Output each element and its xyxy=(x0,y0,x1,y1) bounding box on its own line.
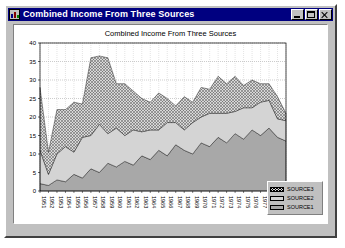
svg-text:1966: 1966 xyxy=(168,196,174,208)
svg-text:1971: 1971 xyxy=(211,196,217,208)
svg-text:25: 25 xyxy=(29,96,36,102)
svg-text:1957: 1957 xyxy=(92,196,98,208)
legend-label: SOURCE3 xyxy=(287,186,314,192)
svg-text:40: 40 xyxy=(29,40,36,46)
svg-text:1974: 1974 xyxy=(236,196,242,208)
legend-swatch-source2 xyxy=(270,196,284,201)
legend-item[interactable]: SOURCE1 xyxy=(270,203,320,211)
svg-text:15: 15 xyxy=(29,133,36,139)
svg-text:1962: 1962 xyxy=(134,196,140,208)
svg-text:10: 10 xyxy=(29,151,36,157)
svg-text:1975: 1975 xyxy=(245,196,251,208)
svg-text:1969: 1969 xyxy=(194,196,200,208)
svg-text:1959: 1959 xyxy=(109,196,115,208)
svg-text:1972: 1972 xyxy=(219,196,225,208)
legend-swatch-source1 xyxy=(270,205,284,210)
legend-label: SOURCE1 xyxy=(287,204,314,210)
legend-swatch-source3 xyxy=(270,187,284,192)
svg-text:1968: 1968 xyxy=(185,196,191,208)
legend-item[interactable]: SOURCE2 xyxy=(270,194,320,202)
title-bar[interactable]: Combined Income From Three Sources xyxy=(8,8,333,21)
legend-label: SOURCE2 xyxy=(287,195,314,201)
legend-item[interactable]: SOURCE3 xyxy=(270,185,320,193)
chart-panel: Combined Income From Three Sources 05101… xyxy=(13,24,328,224)
close-button[interactable] xyxy=(319,9,332,20)
application-window: Combined Income From Three Sources Combi… xyxy=(4,4,337,238)
svg-text:1964: 1964 xyxy=(151,196,157,208)
svg-text:0: 0 xyxy=(33,188,37,194)
svg-text:1956: 1956 xyxy=(83,196,89,208)
svg-text:1970: 1970 xyxy=(202,196,208,208)
svg-text:1963: 1963 xyxy=(143,196,149,208)
svg-text:1976: 1976 xyxy=(253,196,259,208)
svg-text:1953: 1953 xyxy=(58,196,64,208)
svg-text:1951: 1951 xyxy=(41,196,47,208)
svg-text:35: 35 xyxy=(29,59,36,65)
maximize-button[interactable] xyxy=(305,9,318,20)
svg-text:1965: 1965 xyxy=(160,196,166,208)
svg-text:5: 5 xyxy=(33,170,37,176)
svg-text:1961: 1961 xyxy=(126,196,132,208)
svg-text:20: 20 xyxy=(29,114,36,120)
svg-text:1954: 1954 xyxy=(66,196,72,208)
svg-text:30: 30 xyxy=(29,77,36,83)
svg-text:1955: 1955 xyxy=(75,196,81,208)
chart-app-icon xyxy=(9,9,20,20)
svg-text:1973: 1973 xyxy=(228,196,234,208)
chart-legend: SOURCE3 SOURCE2 SOURCE1 xyxy=(267,181,323,215)
svg-text:1967: 1967 xyxy=(177,196,183,208)
svg-text:1958: 1958 xyxy=(100,196,106,208)
svg-text:1952: 1952 xyxy=(49,196,55,208)
minimize-button[interactable] xyxy=(291,9,304,20)
window-title: Combined Income From Three Sources xyxy=(23,8,290,21)
svg-text:1960: 1960 xyxy=(117,196,123,208)
